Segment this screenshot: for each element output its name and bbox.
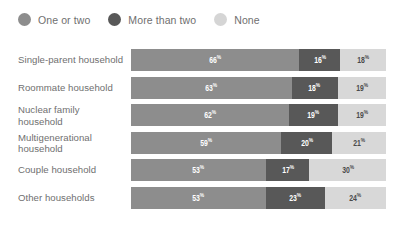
bar-segment[interactable]: 18% [340,49,386,71]
circle-swatch-icon [214,13,227,26]
bar-segment-number: 20 [301,138,308,148]
bar-segment[interactable]: 20% [281,132,332,154]
bar-segment-value: 19% [307,110,319,120]
percent-sign: % [289,165,293,171]
percent-sign: % [363,82,367,88]
bar-segment-value: 18% [357,55,369,65]
percent-sign: % [200,192,204,198]
legend-item-label: None [234,14,260,26]
percent-sign: % [212,109,216,115]
bar-segment-value: 53% [193,165,205,175]
chart-row: Nuclear family household62%19%19% [0,104,401,126]
stacked-bar: 66%16%18% [131,49,386,71]
bar-segment-value: 18% [309,83,321,93]
chart-legend: One or twoMore than twoNone [18,13,278,26]
row-category-label: Couple household [18,165,126,177]
bar-segment-value: 19% [356,83,368,93]
percent-sign: % [213,82,217,88]
legend-item-label: More than two [128,14,196,26]
legend-item-0[interactable]: One or two [18,13,90,26]
percent-sign: % [363,109,367,115]
chart-row: Single-parent household66%16%18% [0,49,401,71]
bar-segment-number: 16 [314,55,321,65]
percent-sign: % [315,109,319,115]
stacked-bar: 63%18%19% [131,77,386,99]
bar-segment[interactable]: 16% [299,49,340,71]
row-category-label: Single-parent household [18,54,126,66]
row-category-label: Other households [18,192,126,204]
bar-segment-number: 18 [357,55,364,65]
bar-segment-value: 20% [301,138,313,148]
stacked-bar: 59%20%21% [131,132,386,154]
percent-sign: % [208,137,212,143]
bar-segment-value: 66% [209,55,221,65]
bar-segment-number: 19 [356,83,363,93]
percent-sign: % [349,165,353,171]
bar-segment-value: 17% [282,165,294,175]
bar-segment[interactable]: 18% [292,77,338,99]
chart-row: Couple household53%17%30% [0,159,401,181]
bar-segment[interactable]: 63% [131,77,292,99]
stacked-bar: 53%17%30% [131,159,386,181]
bar-segment-value: 30% [342,165,354,175]
bar-segment-value: 19% [356,110,368,120]
legend-item-2[interactable]: None [214,13,260,26]
bar-segment-number: 19 [356,110,363,120]
bar-segment[interactable]: 17% [266,159,309,181]
bar-segment[interactable]: 24% [325,187,386,209]
legend-item-1[interactable]: More than two [108,13,196,26]
percent-sign: % [217,54,221,60]
bar-segment[interactable]: 19% [289,104,337,126]
chart-plot-area: Single-parent household66%16%18%Roommate… [0,49,401,215]
bar-segment-number: 21 [353,138,360,148]
bar-segment-value: 16% [314,55,326,65]
bar-segment-number: 66 [209,55,216,65]
stacked-bar: 53%23%24% [131,187,386,209]
row-category-label: Roommate household [18,82,126,94]
bar-segment-value: 63% [205,83,217,93]
bar-segment-value: 24% [349,193,361,203]
bar-segment[interactable]: 21% [332,132,386,154]
percent-sign: % [365,54,369,60]
bar-segment[interactable]: 59% [131,132,281,154]
stacked-bar-chart: One or twoMore than twoNone Single-paren… [0,0,401,226]
percent-sign: % [321,54,325,60]
bar-segment[interactable]: 66% [131,49,299,71]
bar-segment-value: 62% [204,110,216,120]
bar-segment-number: 30 [342,165,349,175]
bar-segment[interactable]: 30% [309,159,386,181]
bar-segment[interactable]: 19% [338,104,386,126]
percent-sign: % [361,137,365,143]
row-category-label: Multigenerational household [18,131,126,154]
percent-sign: % [316,82,320,88]
bar-segment[interactable]: 53% [131,187,266,209]
bar-segment-number: 59 [200,138,207,148]
bar-segment[interactable]: 53% [131,159,266,181]
stacked-bar: 62%19%19% [131,104,386,126]
bar-segment-value: 21% [353,138,365,148]
chart-row: Roommate household63%18%19% [0,77,401,99]
percent-sign: % [309,137,313,143]
bar-segment[interactable]: 62% [131,104,289,126]
bar-segment-number: 62 [204,110,211,120]
bar-segment-value: 59% [200,138,212,148]
percent-sign: % [200,165,204,171]
bar-segment-value: 23% [290,193,302,203]
bar-segment-value: 53% [193,193,205,203]
circle-swatch-icon [108,13,121,26]
bar-segment-number: 17 [282,165,289,175]
bar-segment[interactable]: 23% [266,187,325,209]
circle-swatch-icon [18,13,31,26]
chart-row: Other households53%23%24% [0,187,401,209]
chart-row: Multigenerational household59%20%21% [0,132,401,154]
bar-segment[interactable]: 19% [338,77,386,99]
legend-item-label: One or two [38,14,90,26]
row-category-label: Nuclear family household [18,104,126,127]
percent-sign: % [297,192,301,198]
percent-sign: % [357,192,361,198]
